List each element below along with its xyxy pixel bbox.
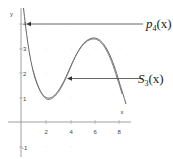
x-tick-2: 2 [45, 129, 49, 135]
x-axis-label: x [121, 109, 124, 115]
p4-label: p4(x) [145, 16, 172, 33]
y-tick-2: 2 [23, 71, 27, 77]
y-tick-3: 3 [23, 46, 27, 52]
y-axis-label: y [10, 11, 13, 17]
x-tick-4: 4 [70, 129, 74, 135]
p4-curve [24, 8, 127, 104]
x-tick-6: 6 [94, 129, 98, 135]
s3-label: S3(x) [138, 71, 164, 88]
s3-arrow [67, 76, 143, 80]
y-tick-1: 1 [23, 96, 27, 102]
grid [46, 24, 121, 148]
x-tick-8: 8 [118, 129, 122, 135]
y-tick-minus-1: -1 [22, 145, 28, 151]
s3-curve [33, 39, 122, 100]
p4-arrow [26, 22, 143, 26]
spline-comparison-chart: 2 4 6 8 4 3 2 1 -1 y x p4(x) S3(x) [0, 0, 173, 159]
